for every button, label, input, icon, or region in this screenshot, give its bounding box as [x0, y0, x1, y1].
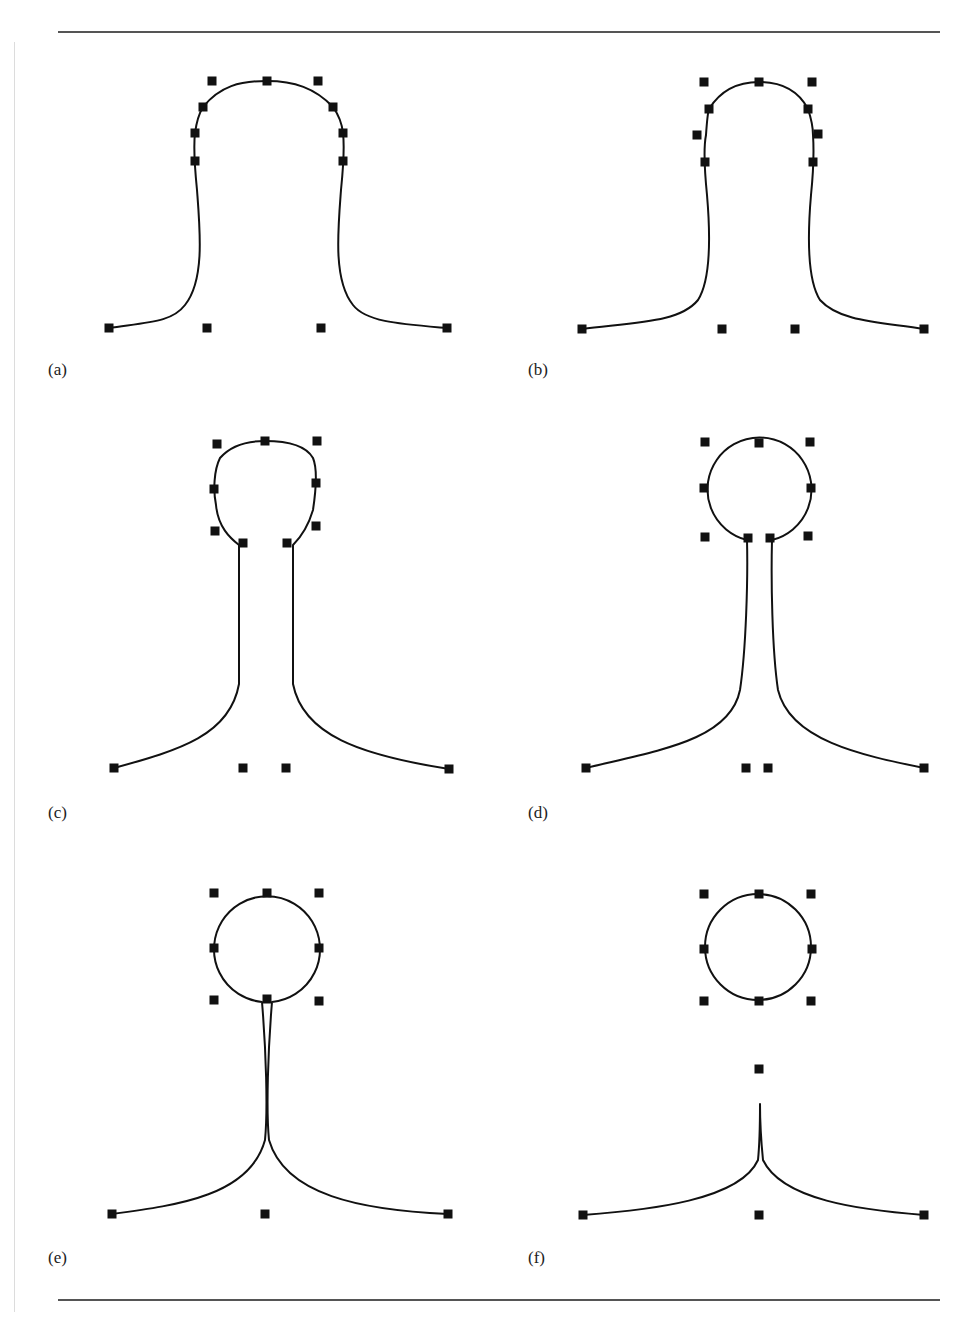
control-point [766, 534, 775, 543]
panel-b [578, 78, 929, 334]
control-point [239, 539, 248, 548]
control-point [744, 534, 753, 543]
spline-figure [0, 0, 969, 1323]
control-point [742, 764, 751, 773]
control-point [804, 105, 813, 114]
control-point [804, 532, 813, 541]
control-point [315, 889, 324, 898]
control-point [282, 764, 291, 773]
control-point [700, 890, 709, 899]
closed-loop-curve [705, 894, 811, 1000]
spline-curve [582, 82, 924, 329]
control-point [108, 1210, 117, 1219]
panel-label-a: (a) [48, 360, 67, 380]
control-point [443, 324, 452, 333]
control-point [814, 130, 823, 139]
control-point [199, 103, 208, 112]
control-point [263, 889, 272, 898]
control-point [283, 539, 292, 548]
panel-label-d: (d) [528, 803, 548, 823]
control-point [701, 158, 710, 167]
control-point [210, 889, 219, 898]
control-point [261, 437, 270, 446]
control-point [755, 997, 764, 1006]
control-point [314, 77, 323, 86]
control-point [315, 944, 324, 953]
control-point [693, 131, 702, 140]
control-point [920, 1211, 929, 1220]
control-point [701, 438, 710, 447]
spline-curve [109, 81, 447, 328]
control-point [210, 996, 219, 1005]
spline-curve [583, 1104, 924, 1215]
control-point [210, 485, 219, 494]
panel-d [582, 438, 929, 773]
panel-label-b: (b) [528, 360, 548, 380]
control-point [213, 440, 222, 449]
control-point [809, 158, 818, 167]
control-point [210, 944, 219, 953]
control-point [339, 129, 348, 138]
control-point [701, 533, 710, 542]
control-point [807, 484, 816, 493]
control-point [807, 997, 816, 1006]
panel-label-c: (c) [48, 803, 67, 823]
control-point [718, 325, 727, 334]
control-point [578, 325, 587, 334]
control-point [700, 945, 709, 954]
control-point [791, 325, 800, 334]
control-point [110, 764, 119, 773]
spline-curve [114, 441, 449, 769]
control-point [582, 764, 591, 773]
spline-curve [112, 896, 448, 1214]
control-point [764, 764, 773, 773]
control-point [317, 324, 326, 333]
control-point [105, 324, 114, 333]
control-point [705, 105, 714, 114]
control-point [700, 997, 709, 1006]
control-point [808, 945, 817, 954]
control-point [312, 479, 321, 488]
panel-c [110, 437, 454, 774]
control-point [807, 890, 816, 899]
control-point [579, 1211, 588, 1220]
control-point [312, 522, 321, 531]
control-point [261, 1210, 270, 1219]
control-point [263, 995, 272, 1004]
control-point [445, 765, 454, 774]
panel-e [108, 889, 453, 1219]
control-point [313, 437, 322, 446]
control-point [239, 764, 248, 773]
control-point [444, 1210, 453, 1219]
control-point [203, 324, 212, 333]
control-point [700, 484, 709, 493]
control-point [920, 764, 929, 773]
control-point [755, 1211, 764, 1220]
control-point [755, 1065, 764, 1074]
control-point [263, 77, 272, 86]
control-point [920, 325, 929, 334]
control-point [191, 157, 200, 166]
control-point [755, 890, 764, 899]
spline-curve [586, 438, 924, 768]
panel-label-e: (e) [48, 1248, 67, 1268]
control-point [329, 103, 338, 112]
control-point [211, 527, 220, 536]
control-point [755, 78, 764, 87]
control-point [806, 438, 815, 447]
control-point [808, 78, 817, 87]
control-point [208, 77, 217, 86]
control-point [191, 129, 200, 138]
panel-f [579, 890, 929, 1220]
control-point [339, 157, 348, 166]
panel-a [105, 77, 452, 333]
control-point [700, 78, 709, 87]
control-point [315, 997, 324, 1006]
panel-label-f: (f) [528, 1248, 545, 1268]
control-point [755, 439, 764, 448]
